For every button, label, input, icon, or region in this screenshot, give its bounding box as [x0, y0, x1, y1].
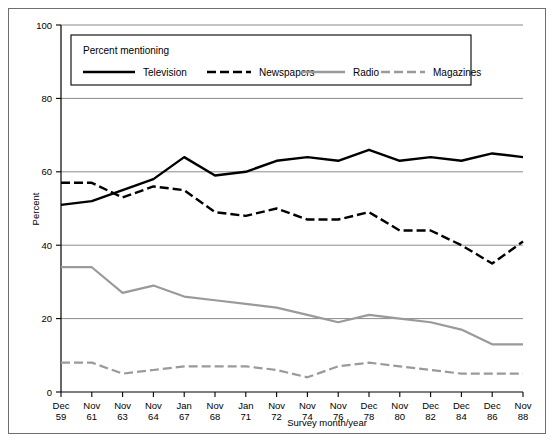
x-tick-label-year: 64 — [148, 411, 159, 422]
x-tick-label-month: Nov — [515, 400, 532, 411]
x-tick-label-month: Nov — [330, 400, 347, 411]
y-tick-label: 100 — [36, 20, 52, 31]
x-tick-label-month: Dec — [484, 400, 501, 411]
x-tick-label-month: Nov — [145, 400, 162, 411]
x-tick-label-year: 88 — [518, 411, 529, 422]
x-tick-label-month: Nov — [83, 400, 100, 411]
y-axis-title: Percent — [30, 192, 41, 225]
x-tick-label-year: 67 — [179, 411, 190, 422]
x-tick-label-month: Nov — [114, 400, 131, 411]
x-tick-label-month: Nov — [268, 400, 285, 411]
x-tick-label-year: 61 — [87, 411, 98, 422]
x-tick-label-year: 59 — [56, 411, 67, 422]
x-axis-title: Survey month/year — [287, 417, 367, 428]
y-tick-label: 0 — [47, 387, 52, 398]
x-tick-label-year: 71 — [241, 411, 252, 422]
legend: Percent mentioning TelevisionNewspapersR… — [71, 35, 481, 85]
y-tick-label: 80 — [41, 93, 52, 104]
x-tick-label-month: Nov — [391, 400, 408, 411]
y-tick-label: 40 — [41, 240, 52, 251]
x-tick-label-month: Jan — [238, 400, 253, 411]
x-tick-label-year: 86 — [487, 411, 498, 422]
x-tick-label-month: Dec — [53, 400, 70, 411]
x-tick-label-year: 63 — [117, 411, 128, 422]
x-tick-label-year: 82 — [425, 411, 436, 422]
x-tick-label-month: Nov — [299, 400, 316, 411]
legend-label-magazines: Magazines — [433, 67, 481, 78]
x-tick-label-year: 84 — [456, 411, 467, 422]
legend-title: Percent mentioning — [83, 45, 169, 56]
x-tick-label-year: 80 — [395, 411, 406, 422]
x-tick-label-year: 68 — [210, 411, 221, 422]
x-tick-label-month: Dec — [422, 400, 439, 411]
line-chart: 020406080100 Dec59Nov61Nov63Nov64Jan67No… — [9, 9, 545, 433]
figure-frame: 020406080100 Dec59Nov61Nov63Nov64Jan67No… — [8, 8, 546, 434]
legend-label-television: Television — [143, 67, 187, 78]
legend-label-radio: Radio — [353, 67, 380, 78]
x-tick-label-month: Nov — [207, 400, 224, 411]
x-tick-label-month: Jan — [177, 400, 192, 411]
y-tick-label: 20 — [41, 313, 52, 324]
x-tick-label-month: Dec — [453, 400, 470, 411]
y-tick-label: 60 — [41, 166, 52, 177]
x-tick-label-year: 72 — [271, 411, 282, 422]
x-tick-label-month: Dec — [361, 400, 378, 411]
